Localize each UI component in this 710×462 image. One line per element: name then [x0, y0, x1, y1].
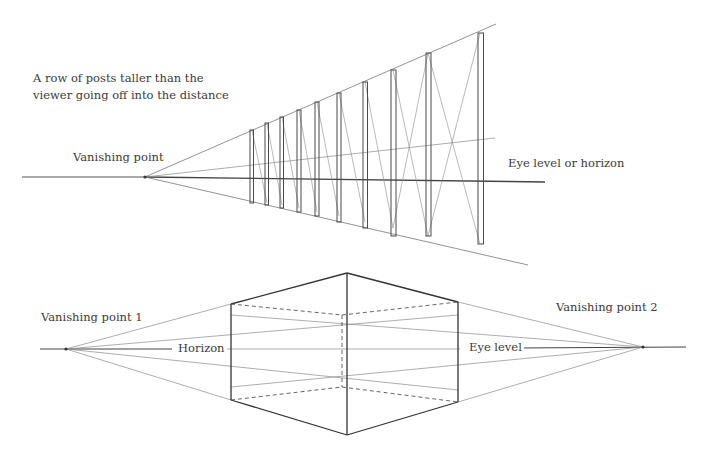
vanishing-point-marker — [143, 175, 146, 178]
eye-level-horizon-label: Eye level or horizon — [508, 156, 624, 171]
drawing-canvas — [0, 0, 710, 462]
vanishing-point-2-marker — [641, 345, 644, 348]
posts — [250, 33, 484, 244]
vanishing-point-label: Vanishing point — [73, 150, 164, 165]
two-point-perspective-diagram — [40, 273, 686, 435]
horizon-label: Horizon — [176, 341, 227, 356]
one-point-perspective-diagram — [22, 24, 545, 265]
vanishing-point-2-label: Vanishing point 2 — [556, 300, 658, 315]
caption-line-1: A row of posts taller than the — [33, 71, 204, 86]
perspective-illustration: A row of posts taller than the viewer go… — [0, 0, 710, 462]
vanishing-point-1-label: Vanishing point 1 — [41, 310, 143, 325]
eye-level-label: Eye level — [467, 340, 524, 355]
caption-line-2: viewer going off into the distance — [33, 88, 229, 103]
box — [231, 273, 458, 435]
vanishing-point-1-marker — [64, 347, 67, 350]
